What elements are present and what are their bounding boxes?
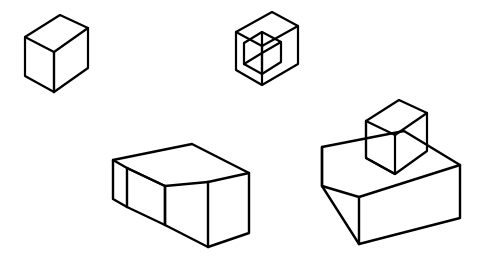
drawing-canvas — [0, 0, 480, 271]
isometric-figures-svg — [0, 0, 480, 271]
